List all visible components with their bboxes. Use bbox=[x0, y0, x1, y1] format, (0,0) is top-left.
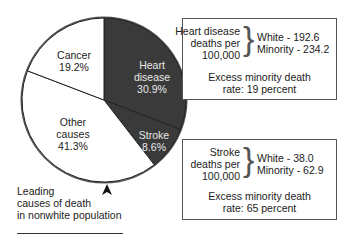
stroke-callout: Stroke deaths per 100,000 } White - 38.0… bbox=[182, 139, 337, 220]
heart-values: White - 192.6 Minority - 234.2 bbox=[257, 31, 329, 55]
white-rate: White - 38.0 bbox=[257, 152, 324, 164]
text-line: 100,000 bbox=[185, 170, 240, 182]
label-line: Heart bbox=[124, 59, 180, 71]
stroke-values: White - 38.0 Minority - 62.9 bbox=[257, 152, 324, 176]
heart-excess-rate: Excess minority death rate: 19 percent bbox=[183, 71, 336, 95]
caption-line: in nonwhite population bbox=[17, 209, 122, 221]
label-line: 19.2% bbox=[50, 61, 98, 73]
label-line: Stroke bbox=[134, 129, 174, 141]
caption-line: Leading bbox=[17, 185, 122, 197]
label-heart-disease: Heart disease 30.9% bbox=[124, 59, 180, 95]
white-rate: White - 192.6 bbox=[257, 31, 329, 43]
text-line: Heart disease bbox=[173, 25, 240, 37]
text-line: deaths per bbox=[185, 37, 240, 49]
label-line: 8.6% bbox=[134, 141, 174, 153]
text-line: Excess minority death bbox=[183, 190, 336, 202]
minority-rate: Minority - 234.2 bbox=[257, 43, 329, 55]
label-line: 41.3% bbox=[48, 140, 98, 152]
stroke-excess-rate: Excess minority death rate: 65 percent bbox=[183, 190, 336, 214]
text-line: Stroke bbox=[185, 146, 240, 158]
label-line: 30.9% bbox=[124, 83, 180, 95]
label-stroke: Stroke 8.6% bbox=[134, 129, 174, 153]
brace-icon: } bbox=[243, 21, 254, 55]
label-line: Other bbox=[48, 116, 98, 128]
text-line: deaths per bbox=[185, 158, 240, 170]
label-line: Cancer bbox=[50, 49, 98, 61]
label-other-causes: Other causes 41.3% bbox=[48, 116, 98, 152]
label-line: causes bbox=[48, 128, 98, 140]
brace-icon: } bbox=[243, 142, 254, 176]
stroke-metric-label: Stroke deaths per 100,000 bbox=[185, 146, 240, 182]
text-line: 100,000 bbox=[185, 49, 240, 61]
text-line: rate: 19 percent bbox=[183, 83, 336, 95]
minority-rate: Minority - 62.9 bbox=[257, 164, 324, 176]
divider bbox=[17, 233, 123, 234]
chart-caption: Leading causes of death in nonwhite popu… bbox=[17, 185, 122, 221]
heart-disease-callout: Heart disease deaths per 100,000 } White… bbox=[182, 18, 337, 100]
text-line: Excess minority death bbox=[183, 71, 336, 83]
caption-line: causes of death bbox=[17, 197, 122, 209]
heart-metric-label: Heart disease deaths per 100,000 bbox=[185, 25, 240, 61]
label-cancer: Cancer 19.2% bbox=[50, 49, 98, 73]
label-line: disease bbox=[124, 71, 180, 83]
text-line: rate: 65 percent bbox=[183, 202, 336, 214]
